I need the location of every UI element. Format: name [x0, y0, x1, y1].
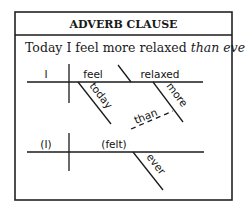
main-verb: feel — [83, 68, 103, 80]
adverb-clause-diagram: ADVERB CLAUSE Today I feel more relaxed … — [0, 0, 245, 206]
panel-title: ADVERB CLAUSE — [68, 18, 177, 31]
main-complement: relaxed — [141, 68, 180, 80]
sentence-plain: Today I feel more relaxed — [25, 40, 191, 55]
example-sentence: Today I feel more relaxed than ever. — [25, 40, 245, 55]
main-subject: I — [44, 68, 47, 80]
sub-subject: (I) — [40, 138, 51, 150]
sub-verb: (felt) — [101, 138, 126, 150]
sentence-italic: than ever. — [191, 40, 245, 55]
